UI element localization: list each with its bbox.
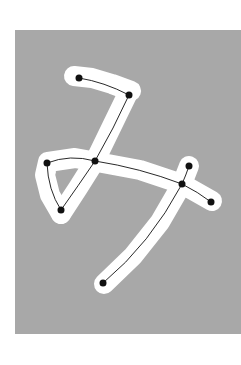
skeleton-node [58, 207, 65, 214]
skeleton-node [126, 92, 133, 99]
character-skeleton-diagram [0, 0, 241, 365]
skeleton-node [208, 199, 215, 206]
skeleton-node [100, 280, 107, 287]
skeleton-node [179, 181, 186, 188]
skeleton-node [186, 163, 193, 170]
skeleton-node [92, 158, 99, 165]
skeleton-node [44, 160, 51, 167]
skeleton-node [76, 75, 83, 82]
